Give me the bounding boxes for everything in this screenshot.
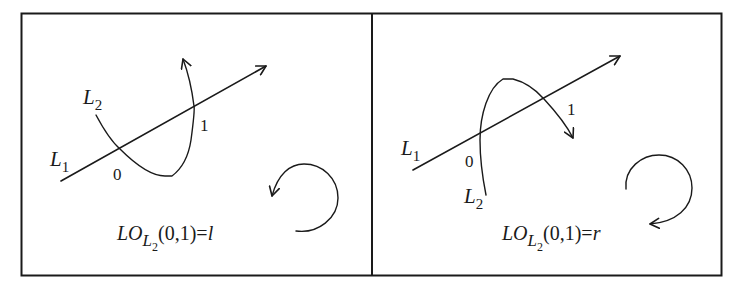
line-l1-arrow <box>413 56 620 170</box>
label-point-1: 1 <box>567 100 576 119</box>
panel-left: L2 L1 0 1 LOL2(0,1)=l <box>49 59 338 254</box>
label-l2: L2 <box>463 184 483 212</box>
curve-l2-arrow <box>96 59 194 176</box>
label-point-0: 0 <box>113 165 122 184</box>
label-l2: L2 <box>82 85 102 113</box>
label-l1: L1 <box>49 147 69 175</box>
clockwise-arrow-icon <box>626 155 692 224</box>
formula-left: LOL2(0,1)=l <box>116 222 214 254</box>
orientation-diagram: L2 L1 0 1 LOL2(0,1)=l L1 0 L2 1 LOL2(0,1… <box>0 0 742 295</box>
panel-right: L1 0 L2 1 LOL2(0,1)=r <box>400 56 692 254</box>
line-l1-arrow <box>61 66 266 181</box>
counterclockwise-arrow-icon <box>272 164 338 231</box>
label-point-0: 0 <box>465 152 474 171</box>
formula-right: LOL2(0,1)=r <box>501 222 601 254</box>
curve-l2-arrow <box>480 79 573 195</box>
label-l1: L1 <box>400 136 420 164</box>
label-point-1: 1 <box>200 116 209 135</box>
